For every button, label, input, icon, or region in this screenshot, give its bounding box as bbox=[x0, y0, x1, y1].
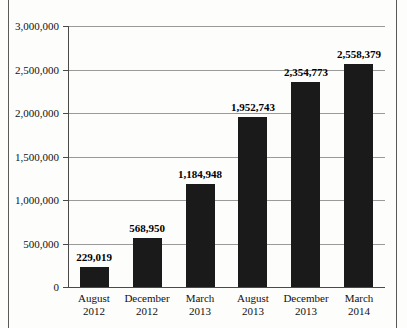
y-axis-tick-label: 1,000,000 bbox=[0, 195, 59, 206]
gridline bbox=[68, 113, 385, 114]
y-axis-tick-label: 1,500,000 bbox=[0, 152, 59, 163]
bar-value-label: 2,558,379 bbox=[314, 49, 404, 60]
bar[interactable] bbox=[186, 184, 215, 287]
y-axis-tick-label: 2,000,000 bbox=[0, 108, 59, 119]
bar-value-label: 229,019 bbox=[49, 252, 139, 263]
bar[interactable] bbox=[238, 117, 267, 287]
category-year: 2014 bbox=[317, 305, 401, 318]
gridline bbox=[68, 26, 385, 27]
x-axis-line bbox=[68, 287, 385, 288]
page-canvas: 0500,0001,000,0001,500,0002,000,0002,500… bbox=[0, 0, 407, 328]
x-axis-category-label: March2014 bbox=[317, 292, 401, 318]
y-axis-tick-label: 500,000 bbox=[0, 239, 59, 250]
y-axis-tick-label: 2,500,000 bbox=[0, 65, 59, 76]
bar-value-label: 1,184,948 bbox=[155, 169, 245, 180]
category-month: March bbox=[317, 292, 401, 305]
gridline bbox=[68, 244, 385, 245]
y-axis-line bbox=[68, 26, 69, 288]
y-axis-tick-label: 3,000,000 bbox=[0, 21, 59, 32]
bar-value-label: 1,952,743 bbox=[208, 102, 298, 113]
bar-value-label: 568,950 bbox=[102, 223, 192, 234]
y-axis-tick-label: 0 bbox=[0, 282, 59, 293]
bar-value-label: 2,354,773 bbox=[261, 67, 351, 78]
bar[interactable] bbox=[344, 64, 373, 287]
bar[interactable] bbox=[80, 267, 109, 287]
gridline bbox=[68, 200, 385, 201]
gridline bbox=[68, 157, 385, 158]
bar-chart: 0500,0001,000,0001,500,0002,000,0002,500… bbox=[0, 0, 407, 328]
